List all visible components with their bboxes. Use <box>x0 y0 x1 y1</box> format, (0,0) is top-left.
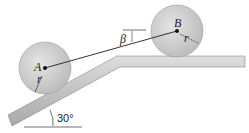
label-radius-b: r <box>184 31 189 45</box>
center-a-dot <box>43 66 47 70</box>
label-b: B <box>174 16 182 30</box>
two-wheels-incline-diagram: A B r r β 30° <box>0 0 249 133</box>
angle-arc <box>50 110 53 126</box>
label-beta: β <box>119 32 126 46</box>
label-incline-angle: 30° <box>57 112 74 124</box>
label-radius-a: r <box>37 72 42 86</box>
